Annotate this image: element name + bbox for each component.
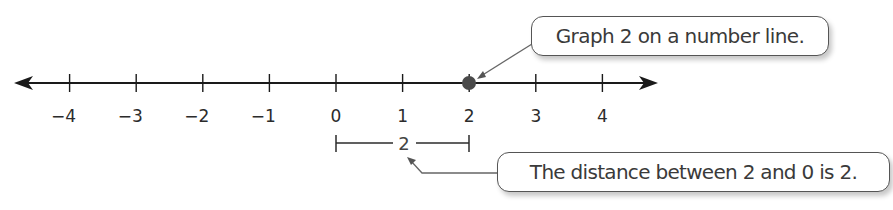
tick-label: 3 bbox=[530, 106, 541, 126]
callout-graph-text: Graph 2 on a number line. bbox=[556, 24, 805, 48]
distance-leader-arrowhead-icon bbox=[407, 157, 416, 165]
tick-label: −2 bbox=[184, 106, 209, 126]
tick-label: 1 bbox=[397, 106, 408, 126]
graph-leader-arrowhead-icon bbox=[477, 71, 486, 79]
tick-label: 4 bbox=[597, 106, 608, 126]
plotted-point bbox=[462, 76, 476, 90]
callout-distance-text: The distance between 2 and 0 is 2. bbox=[530, 160, 857, 184]
callout-graph-instruction: Graph 2 on a number line. bbox=[531, 16, 829, 56]
tick-label: −3 bbox=[118, 106, 143, 126]
bracket-label: 2 bbox=[398, 133, 409, 154]
tick-label: 2 bbox=[464, 106, 475, 126]
tick-labels: −4−3−2−101234 bbox=[51, 106, 608, 126]
graph-leader-line bbox=[481, 44, 532, 76]
tick-label: −1 bbox=[251, 106, 276, 126]
tick-label: 0 bbox=[331, 106, 342, 126]
tick-label: −4 bbox=[51, 106, 76, 126]
callout-distance-explanation: The distance between 2 and 0 is 2. bbox=[497, 152, 890, 192]
distance-leader-line bbox=[411, 161, 498, 173]
